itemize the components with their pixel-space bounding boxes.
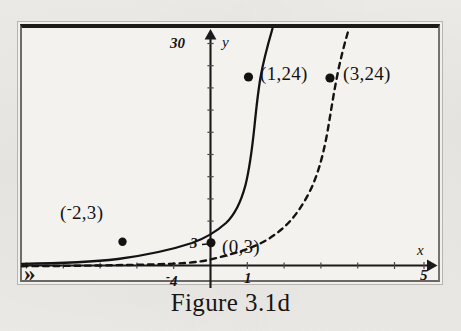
x-tick-label-1: 1 [244,271,252,286]
y-axis-arrowhead [205,29,217,40]
y-axis-max-label: 30 [170,36,185,51]
point-label-0-3: (0,3) [222,237,260,256]
point-label-3-24: (3,24) [343,64,391,83]
x-axis-arrowhead [427,260,438,272]
curve-solid-exponential [22,29,273,264]
coordinate-plot [0,0,461,331]
point-label-1-24: (1,24) [260,64,308,83]
x-tick-label-5: 5 [420,268,428,283]
point-0-3 [207,238,216,247]
x-tick-label-neg4-number: 4 [170,273,178,289]
y-tick-label-3: 3 [190,236,198,251]
point-label-neg2-3-body: 2,3 [72,202,97,223]
point-label-neg2-3-open: ( [60,202,67,223]
double-chevron-marker: » [24,262,33,285]
point-label-neg2-3-close: ) [97,202,104,223]
x-tick-label-neg4: -4 [166,271,178,289]
point-1-24 [244,72,253,81]
point-3-24 [325,73,334,82]
figure-caption: Figure 3.1d [0,289,461,317]
y-label-3-leader [202,244,208,245]
y-axis-name-label: y [222,35,229,50]
point-neg2-3 [118,238,126,246]
x-axis-name-label: x [417,243,424,258]
point-label-neg2-3: (-2,3) [60,200,103,222]
